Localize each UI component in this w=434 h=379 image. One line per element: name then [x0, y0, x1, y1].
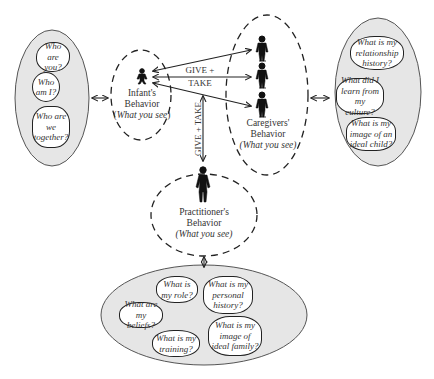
question-bubble: Who am I?: [32, 72, 60, 102]
question-bubble: What is my relationship history?: [350, 36, 404, 70]
practitioner-behavior-label: Practitioner's Behavior (What you see): [160, 207, 248, 240]
infant-figure-icon: [137, 69, 147, 84]
question-text: What did I learn from my culture?: [339, 75, 381, 117]
practitioner-subtitle: Behavior: [160, 218, 248, 229]
question-bubble: What is my training?: [152, 330, 200, 357]
question-bubble: What is my role?: [156, 276, 198, 303]
give-label: GIVE +: [180, 65, 220, 76]
question-bubble: What is my personal history?: [203, 276, 253, 314]
take-label: TAKE: [180, 78, 220, 89]
caregiver-figure-icon-1: [256, 36, 268, 61]
question-text: Who am I?: [35, 77, 57, 98]
question-text: What is my personal history?: [206, 279, 250, 311]
practitioner-title: Practitioner's: [160, 207, 248, 218]
practitioner-figure-icon: [196, 167, 210, 202]
question-bubble: What is my image of ideal family?: [208, 316, 262, 356]
question-text: What are my beliefs?: [122, 299, 160, 331]
caregiver-figure-icon-3: [256, 92, 268, 117]
question-text: What is my training?: [155, 333, 197, 354]
caregivers-note: (What you see): [226, 140, 310, 151]
question-text: What is my relationship history?: [353, 37, 401, 69]
give-take-vertical-label: GIVE + TAKE: [193, 94, 203, 164]
caregivers-dashed-oval: [226, 15, 308, 175]
infant-behavior-label: Infant's Behavior (What you see): [112, 88, 172, 121]
question-text: What is my image of ideal family?: [211, 320, 259, 352]
question-bubble: Who are we together?: [32, 106, 70, 148]
caregiver-figure-icon-2: [256, 63, 268, 88]
question-bubble: What did I learn from my culture?: [336, 78, 384, 114]
caregivers-title: Caregivers': [226, 118, 310, 129]
question-text: What is my role?: [159, 279, 195, 300]
infant-title: Infant's: [112, 88, 172, 99]
give-take-horizontal-label: GIVE + TAKE: [180, 65, 220, 89]
question-bubble: What are my beliefs?: [119, 302, 163, 328]
caregivers-subtitle: Behavior: [226, 129, 310, 140]
diagram-canvas: Who are you? Who am I? Who are we togeth…: [0, 0, 434, 379]
practitioner-note: (What you see): [160, 229, 248, 240]
caregivers-behavior-label: Caregivers' Behavior (What you see): [226, 118, 310, 151]
question-text: Who are we together?: [34, 111, 68, 143]
question-text: What is my image of an ideal child?: [349, 118, 393, 150]
question-bubble: Who are you?: [36, 42, 70, 72]
infant-note: (What you see): [112, 110, 172, 121]
question-text: Who are you?: [39, 41, 67, 73]
question-bubble: What is my image of an ideal child?: [346, 117, 396, 151]
infant-subtitle: Behavior: [112, 99, 172, 110]
